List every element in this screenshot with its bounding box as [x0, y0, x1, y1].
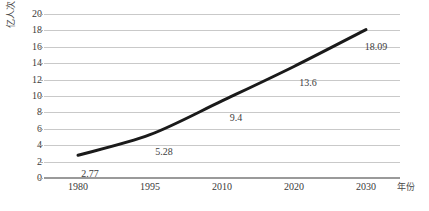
data-label-1980: 2.77	[81, 169, 99, 179]
series-line-亿人次	[78, 30, 366, 156]
x-tick-label-2010: 2010	[212, 182, 232, 192]
data-label-2010: 9.4	[230, 113, 243, 123]
y-axis-tick-labels: 02468101214161820	[22, 0, 42, 211]
x-tick-label-1995: 1995	[140, 182, 160, 192]
y-tick-mark-10	[38, 96, 43, 97]
x-tick-label-2030: 2030	[356, 182, 376, 192]
y-tick-mark-4	[38, 145, 43, 146]
y-tick-mark-6	[38, 129, 43, 130]
y-axis-title-text: 亿人次	[4, 1, 17, 28]
y-tick-mark-20	[38, 14, 43, 15]
data-label-2020: 13.6	[299, 78, 317, 88]
y-tick-mark-14	[38, 63, 43, 64]
plot-area	[44, 14, 400, 178]
y-tick-mark-0	[38, 178, 43, 179]
y-tick-mark-2	[38, 162, 43, 163]
x-axis-tick-labels: 19801995201020202030	[0, 182, 429, 198]
y-axis-title: 亿人次	[2, 8, 18, 68]
x-tick-label-2020: 2020	[284, 182, 304, 192]
data-label-1995: 5.28	[155, 147, 173, 157]
series-line-layer	[44, 14, 400, 178]
y-tick-mark-16	[38, 47, 43, 48]
line-chart: 亿人次 02468101214161820 2.775.289.413.618.…	[0, 0, 429, 211]
y-tick-mark-18	[38, 30, 43, 31]
x-tick-label-1980: 1980	[68, 182, 88, 192]
x-axis-title: 年份	[397, 183, 415, 192]
y-tick-mark-12	[38, 80, 43, 81]
data-label-2030: 18.09	[365, 42, 388, 52]
y-tick-mark-8	[38, 112, 43, 113]
